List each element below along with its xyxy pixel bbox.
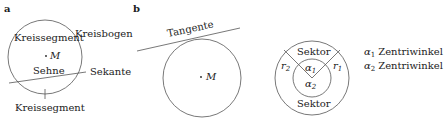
center-point-a	[45, 55, 47, 57]
alpha2-label: α2	[305, 78, 317, 91]
center-label-a: M	[49, 50, 61, 61]
center-point-b	[200, 76, 202, 78]
legend-item-alpha1: α1Zentriwinkel	[364, 46, 443, 59]
legend-item-alpha2: α2Zentriwinkel	[364, 60, 443, 73]
circle-terms-diagram: a Kreissegment Kreisbogen M Sehne Sekant…	[0, 0, 448, 125]
sector-top-label: Sektor	[297, 46, 331, 57]
panel-a-label: a	[4, 3, 11, 14]
r1-label: r1	[333, 60, 342, 73]
tangent-label: Tangente	[166, 18, 214, 39]
r2-label: r2	[281, 60, 291, 73]
segment-bottom-label: Kreissegment	[15, 102, 85, 113]
arc-label: Kreisbogen	[75, 28, 133, 39]
panel-b-label: b	[133, 3, 140, 14]
chord-label: Sehne	[33, 65, 65, 76]
center-label-b: M	[205, 71, 217, 82]
secant-label: Sekante	[90, 66, 131, 77]
sector-bottom-label: Sektor	[297, 98, 331, 109]
circle-b	[163, 39, 241, 117]
segment-top-label: Kreissegment	[14, 32, 84, 43]
